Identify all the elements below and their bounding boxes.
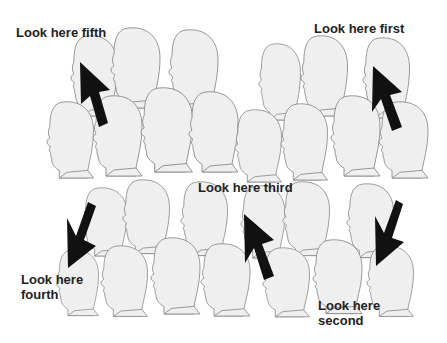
gaze-order-diagram: Look here fifth Look here first Look her…: [0, 0, 447, 343]
label-look-fourth: Look here fourth: [21, 272, 83, 302]
label-look-second: Look here second: [318, 298, 380, 328]
head-row-2: [47, 88, 428, 182]
label-look-first: Look here first: [314, 21, 404, 36]
label-look-fourth-line2: fourth: [21, 287, 83, 302]
label-look-second-line2: second: [318, 313, 380, 328]
label-look-second-line1: Look here: [318, 298, 380, 313]
label-look-fourth-line1: Look here: [21, 272, 83, 287]
label-look-third: Look here third: [198, 180, 293, 195]
label-look-fifth: Look here fifth: [16, 25, 106, 40]
